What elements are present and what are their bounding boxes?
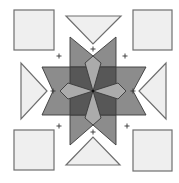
plus-marker-icon — [91, 130, 96, 135]
corner-square-bottom-right — [133, 130, 172, 171]
corner-square-bottom-left — [14, 130, 54, 170]
quilt-block-diagram — [0, 0, 179, 183]
plus-marker-icon — [57, 124, 62, 129]
star-center-point — [92, 90, 94, 92]
plus-marker-icon — [57, 54, 62, 59]
plus-marker-icon — [125, 124, 130, 129]
corner-square-top-right — [133, 10, 172, 50]
side-triangle-left — [21, 63, 47, 119]
corner-square-top-left — [14, 10, 54, 50]
plus-marker-icon — [123, 54, 128, 59]
eight-point-star — [42, 37, 146, 145]
plus-marker-icon — [91, 47, 96, 52]
diagram-canvas — [0, 0, 179, 183]
